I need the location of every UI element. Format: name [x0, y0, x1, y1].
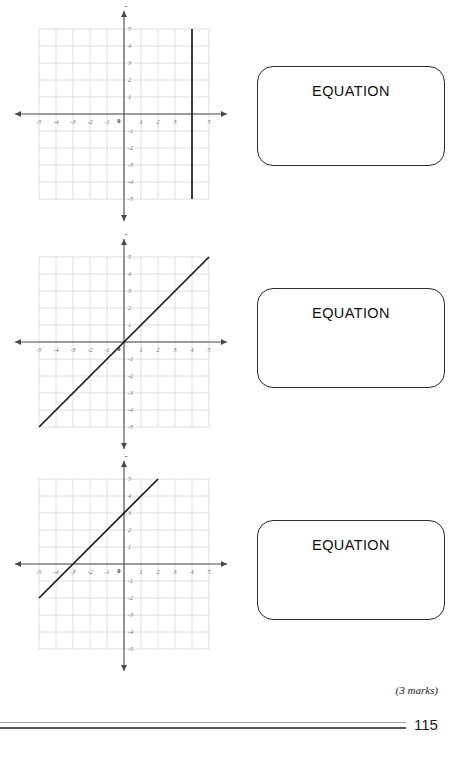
svg-text:1: 1	[139, 346, 142, 353]
graph-1: -5-4-3-2-11235054321-1-2-3-4-5xy	[4, 6, 244, 222]
equation-box-2[interactable]: EQUATION	[257, 288, 445, 388]
svg-text:-2: -2	[128, 144, 133, 151]
svg-text:3: 3	[172, 346, 176, 353]
svg-text:-5: -5	[128, 423, 133, 430]
equation-box-label-2: EQUATION	[258, 305, 444, 321]
axes	[15, 461, 227, 671]
svg-text:3: 3	[172, 118, 176, 125]
svg-text:-5: -5	[36, 568, 41, 575]
svg-text:-4: -4	[53, 346, 58, 353]
axis-label-y: y	[125, 456, 131, 457]
svg-text:-1: -1	[104, 568, 109, 575]
svg-text:5: 5	[207, 568, 210, 575]
svg-text:1: 1	[128, 93, 131, 100]
svg-text:2: 2	[156, 346, 159, 353]
svg-text:5: 5	[128, 25, 131, 32]
svg-text:3: 3	[127, 59, 131, 66]
svg-text:2: 2	[128, 304, 131, 311]
svg-text:-2: -2	[87, 568, 92, 575]
svg-text:1: 1	[139, 568, 142, 575]
page-number: 115	[414, 716, 438, 733]
svg-text:-5: -5	[128, 645, 133, 652]
svg-text:-2: -2	[87, 118, 92, 125]
problem-row-3: -5-4-3-2-112345054321-1-2-3-4-5xy EQUATI…	[0, 450, 452, 678]
footer-rule	[0, 722, 406, 730]
svg-text:-1: -1	[128, 355, 133, 362]
svg-text:-2: -2	[128, 372, 133, 379]
graph-2: -5-4-3-2-112345054321-1-2-3-4-5xy	[4, 234, 244, 450]
axes	[15, 11, 227, 221]
svg-text:1: 1	[128, 321, 131, 328]
svg-text:5: 5	[207, 118, 210, 125]
svg-text:-4: -4	[128, 406, 133, 413]
svg-text:-3: -3	[70, 346, 75, 353]
svg-text:4: 4	[190, 346, 193, 353]
footer-rule-thick	[0, 727, 406, 729]
svg-text:-3: -3	[70, 568, 75, 575]
svg-text:-2: -2	[87, 346, 92, 353]
svg-text:-5: -5	[128, 195, 133, 202]
plotted-line	[39, 479, 158, 598]
svg-text:-4: -4	[128, 628, 133, 635]
svg-text:-3: -3	[70, 118, 75, 125]
svg-text:4: 4	[128, 42, 131, 49]
svg-text:4: 4	[128, 492, 131, 499]
svg-text:2: 2	[156, 118, 159, 125]
equation-box-label-1: EQUATION	[258, 83, 444, 99]
svg-text:1: 1	[139, 118, 142, 125]
graph-2-svg: -5-4-3-2-112345054321-1-2-3-4-5xy	[4, 234, 244, 450]
svg-text:-5: -5	[36, 346, 41, 353]
svg-text:-3: -3	[128, 389, 133, 396]
svg-text:2: 2	[128, 76, 131, 83]
graph-1-svg: -5-4-3-2-11235054321-1-2-3-4-5xy	[4, 6, 244, 222]
svg-text:-4: -4	[53, 568, 58, 575]
svg-text:3: 3	[127, 287, 131, 294]
problem-row-2: -5-4-3-2-112345054321-1-2-3-4-5xy EQUATI…	[0, 228, 452, 456]
svg-text:-4: -4	[128, 178, 133, 185]
marks-note: (3 marks)	[396, 684, 438, 696]
svg-text:2: 2	[128, 526, 131, 533]
svg-text:3: 3	[172, 568, 176, 575]
svg-text:5: 5	[128, 475, 131, 482]
svg-text:-5: -5	[36, 118, 41, 125]
axis-label-y: y	[125, 234, 131, 235]
svg-text:-3: -3	[128, 611, 133, 618]
svg-text:-3: -3	[128, 161, 133, 168]
worksheet-page: -5-4-3-2-11235054321-1-2-3-4-5xy EQUATIO…	[0, 0, 452, 757]
graph-3: -5-4-3-2-112345054321-1-2-3-4-5xy	[4, 456, 244, 672]
svg-text:-4: -4	[53, 118, 58, 125]
svg-text:4: 4	[190, 568, 193, 575]
svg-text:2: 2	[156, 568, 159, 575]
graph-3-svg: -5-4-3-2-112345054321-1-2-3-4-5xy	[4, 456, 244, 672]
equation-box-1[interactable]: EQUATION	[257, 66, 445, 166]
svg-text:-1: -1	[104, 118, 109, 125]
svg-text:-1: -1	[128, 577, 133, 584]
svg-text:4: 4	[128, 270, 131, 277]
problem-row-1: -5-4-3-2-11235054321-1-2-3-4-5xy EQUATIO…	[0, 0, 452, 228]
svg-text:0: 0	[117, 117, 120, 124]
footer-rule-thin	[0, 722, 406, 723]
svg-text:5: 5	[128, 253, 131, 260]
equation-box-3[interactable]: EQUATION	[257, 520, 445, 620]
svg-text:-1: -1	[104, 346, 109, 353]
equation-box-label-3: EQUATION	[258, 537, 444, 553]
axis-label-y: y	[125, 6, 131, 7]
svg-text:-2: -2	[128, 594, 133, 601]
svg-text:-1: -1	[128, 127, 133, 134]
svg-text:1: 1	[128, 543, 131, 550]
svg-text:0: 0	[117, 567, 120, 574]
svg-text:5: 5	[207, 346, 210, 353]
